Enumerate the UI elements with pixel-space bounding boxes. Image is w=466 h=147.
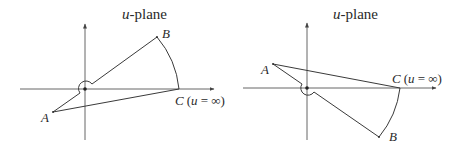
left-label-C: C(u = ∞) bbox=[175, 93, 225, 108]
left-title: u-plane bbox=[122, 6, 167, 22]
right-label-C: C(u = ∞) bbox=[392, 71, 442, 86]
left-point-B bbox=[156, 36, 158, 38]
left-contour bbox=[53, 37, 179, 112]
left-label-B: B bbox=[162, 26, 170, 41]
right-origin-point bbox=[305, 86, 309, 90]
right-point-B bbox=[378, 136, 380, 138]
left-origin-point bbox=[83, 87, 87, 91]
left-u-plane: u-plane A B C(u = ∞) bbox=[20, 6, 225, 140]
right-title: u-plane bbox=[333, 6, 378, 22]
right-contour bbox=[273, 64, 400, 137]
right-u-plane: u-plane A B C(u = ∞) bbox=[243, 6, 442, 144]
left-point-A bbox=[52, 111, 54, 113]
left-label-A: A bbox=[40, 110, 49, 125]
right-point-A bbox=[272, 63, 274, 65]
u-plane-diagrams: u-plane A B C(u = ∞) u-plane A B C(u = ∞… bbox=[0, 0, 466, 147]
right-label-A: A bbox=[260, 62, 269, 77]
right-label-B: B bbox=[389, 129, 397, 144]
